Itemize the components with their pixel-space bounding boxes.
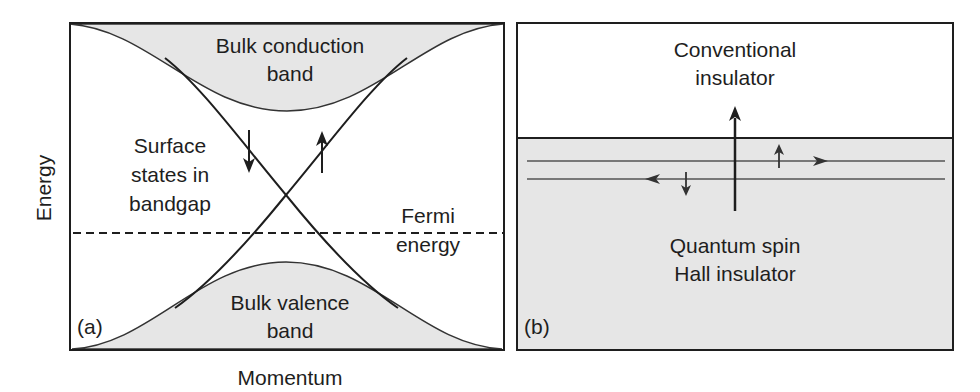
- y-axis-label: Energy: [32, 154, 55, 221]
- surface-states-label-line2: states in: [131, 163, 209, 186]
- surface-states-label-line3: bandgap: [129, 192, 211, 215]
- conduction-band-label-line1: Bulk conduction: [216, 34, 364, 57]
- conduction-band-label-line2: band: [267, 62, 314, 85]
- qsh-insulator-label-line1: Quantum spin: [670, 234, 801, 257]
- panel-b-tag: (b): [524, 315, 550, 338]
- panel-b: Conventional insulator Quantum spin Hall…: [517, 23, 953, 350]
- surface-states-label-line1: Surface: [134, 134, 206, 157]
- panel-a-tag: (a): [77, 315, 103, 338]
- fermi-label-line2: energy: [396, 233, 461, 256]
- valence-band-label-line1: Bulk valence: [230, 291, 349, 314]
- fermi-label-line1: Fermi: [401, 204, 455, 227]
- conventional-insulator-label-line1: Conventional: [674, 38, 797, 61]
- spin-up-arrow-icon: [316, 131, 328, 173]
- band-structure-figure: Bulk conduction band Surface states in b…: [0, 0, 980, 392]
- panel-a: Bulk conduction band Surface states in b…: [32, 23, 504, 389]
- valence-band-label-line2: band: [267, 319, 314, 342]
- spin-down-arrow-icon: [243, 130, 255, 173]
- conventional-insulator-label-line2: insulator: [695, 66, 774, 89]
- x-axis-label: Momentum: [237, 366, 342, 389]
- qsh-insulator-label-line2: Hall insulator: [674, 262, 795, 285]
